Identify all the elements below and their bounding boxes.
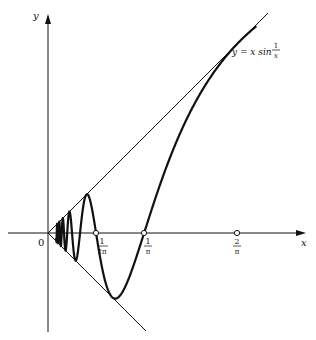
svg-text:1: 1 (99, 237, 104, 246)
svg-text:y = x sin: y = x sin (231, 47, 272, 57)
tick-label-2-pi: 2 π (233, 237, 241, 256)
tick-label-1-pi: 1 π (144, 237, 152, 256)
curve-label: y = x sin 1 x (231, 42, 280, 60)
tick-marker-2-pi (234, 230, 239, 235)
x-axis-label: x (301, 237, 307, 248)
svg-text:2: 2 (234, 237, 239, 246)
svg-text:π: π (235, 248, 240, 256)
svg-text:1: 1 (145, 237, 150, 246)
x-axis-arrow (296, 230, 306, 236)
y-axis-arrow (45, 14, 51, 24)
function-plot: y x 0 1 2π 1 π 2 π y = x sin 1 x (0, 0, 316, 340)
tick-marker-1-pi (141, 230, 146, 235)
svg-text:2π: 2π (97, 248, 106, 256)
y-axis-label: y (32, 10, 39, 21)
svg-text:1: 1 (274, 42, 278, 50)
curve-x-sin-1-over-x (56, 26, 256, 298)
svg-text:x: x (274, 52, 278, 60)
origin-label: 0 (38, 237, 44, 248)
svg-text:π: π (146, 248, 151, 256)
tick-marker-1-2pi (93, 230, 98, 235)
